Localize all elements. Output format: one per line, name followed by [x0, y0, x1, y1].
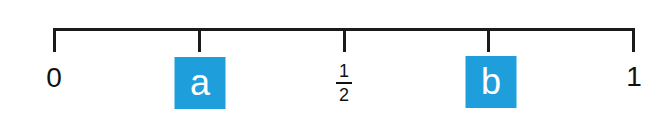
tick-b — [487, 28, 490, 52]
variable-box-a: a — [175, 57, 226, 109]
variable-box-b: b — [466, 56, 517, 108]
tick-a — [198, 28, 201, 52]
fraction-bar — [336, 82, 352, 84]
tick-1 — [632, 28, 635, 52]
tick-0 — [53, 28, 56, 52]
fraction-numerator: 1 — [339, 62, 349, 80]
fraction-denominator: 2 — [339, 86, 349, 104]
tick-half — [343, 28, 346, 52]
label-one: 1 — [626, 63, 642, 91]
label-zero: 0 — [46, 64, 62, 92]
label-one-half: 1 2 — [336, 62, 352, 104]
